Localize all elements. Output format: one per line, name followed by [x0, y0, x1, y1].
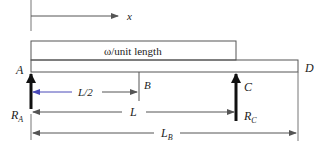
- reaction-c-label: RC: [243, 109, 257, 125]
- point-a-label: A: [15, 63, 24, 77]
- distributed-load-label: ω/unit length: [104, 45, 162, 57]
- diagram-canvas: x ω/unit length A D RA B C RC L/2 L: [0, 0, 326, 154]
- reaction-a-label: RA: [10, 108, 23, 124]
- point-c-label: C: [244, 80, 253, 94]
- beam-diagram: x ω/unit length A D RA B C RC L/2 L: [0, 0, 326, 154]
- dim-l-label: L: [129, 105, 137, 119]
- dim-lb-label: LB: [160, 126, 173, 142]
- point-d-label: D: [304, 61, 314, 75]
- dim-half-label: L/2: [77, 86, 93, 98]
- x-axis-label: x: [126, 10, 132, 22]
- point-b-label: B: [144, 79, 151, 91]
- beam: [31, 60, 298, 72]
